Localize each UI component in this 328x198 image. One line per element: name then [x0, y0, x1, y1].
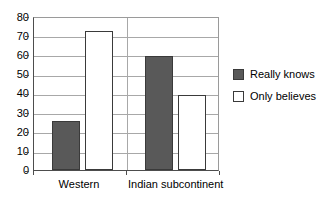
- y-axis-tick-mark: [25, 132, 29, 133]
- bar-chart: 80 70 60 50 40 30 20 10 0: [0, 0, 328, 198]
- y-axis-tick-mark: [25, 94, 29, 95]
- plot-frame: [33, 17, 219, 171]
- y-axis-tick-mark: [25, 171, 29, 172]
- x-axis-label-indian-subcontinent: Indian subcontinent: [128, 178, 216, 190]
- x-axis-tick-mark: [33, 171, 34, 175]
- y-axis: 80 70 60 50 40 30 20 10 0: [0, 0, 29, 198]
- legend-swatch-only-believes: [233, 91, 244, 102]
- legend-swatch-really-knows: [233, 69, 244, 80]
- gridline-60: [34, 56, 218, 57]
- x-axis-tick-mark: [126, 171, 127, 175]
- y-axis-tick-mark: [25, 17, 29, 18]
- legend-item-only-believes: Only believes: [233, 86, 316, 106]
- x-axis-tick-mark: [219, 171, 220, 175]
- y-axis-tick-mark: [25, 36, 29, 37]
- y-axis-tick-mark: [25, 152, 29, 153]
- legend: Really knows Only believes: [233, 64, 316, 108]
- y-axis-tick-mark: [25, 113, 29, 114]
- legend-label-really-knows: Really knows: [250, 68, 315, 80]
- legend-item-really-knows: Really knows: [233, 64, 316, 84]
- y-axis-tick-mark: [25, 75, 29, 76]
- group-separator: [127, 18, 128, 170]
- gridline-50: [34, 76, 218, 77]
- gridline-70: [34, 37, 218, 38]
- y-axis-tick-mark: [25, 55, 29, 56]
- bar-indian-subcontinent-only-believes: [178, 95, 206, 170]
- x-axis-label-western: Western: [35, 178, 123, 190]
- plot-area: [33, 17, 219, 171]
- legend-label-only-believes: Only believes: [250, 90, 316, 102]
- bar-western-really-knows: [52, 121, 80, 170]
- bar-western-only-believes: [85, 31, 113, 170]
- bar-indian-subcontinent-really-knows: [145, 56, 173, 170]
